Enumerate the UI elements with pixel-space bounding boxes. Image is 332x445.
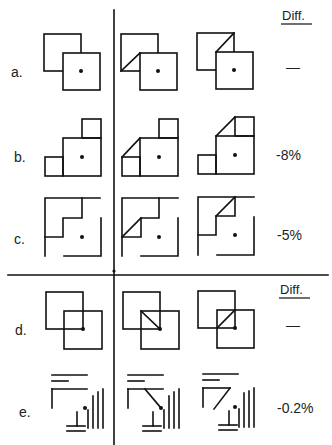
figure-panel: Diff. Diff. a. — b. bbox=[0, 0, 332, 445]
row-label: c. bbox=[14, 231, 25, 247]
row-e: e. bbox=[19, 374, 314, 431]
figure-a-original bbox=[44, 34, 100, 90]
occlusion-figure-diagram: Diff. Diff. a. — b. bbox=[0, 0, 332, 445]
row-label: b. bbox=[14, 149, 26, 165]
row-d: d. — bbox=[15, 291, 300, 349]
figure-a-variant-2 bbox=[197, 33, 253, 89]
diff-value: — bbox=[286, 59, 300, 75]
divider-tick bbox=[112, 269, 115, 272]
figure-c-variant-1 bbox=[122, 198, 178, 256]
diff-header-label: Diff. bbox=[280, 282, 303, 297]
diff-header-label: Diff. bbox=[282, 8, 305, 23]
row-c: c. -5% bbox=[14, 197, 302, 256]
header-diff-bottom: Diff. bbox=[279, 282, 310, 298]
header-diff-top: Diff. bbox=[281, 8, 312, 24]
figure-b-variant-1 bbox=[122, 119, 178, 176]
figure-c-variant-2 bbox=[198, 197, 254, 255]
row-a: a. — bbox=[11, 33, 300, 90]
figure-e-original bbox=[52, 375, 103, 431]
diff-value: -0.2% bbox=[277, 400, 314, 416]
figure-b-variant-2 bbox=[198, 117, 254, 174]
row-label: e. bbox=[19, 404, 31, 420]
row-label: d. bbox=[15, 322, 27, 338]
diff-value: — bbox=[286, 317, 300, 333]
figure-a-variant-1 bbox=[121, 34, 177, 90]
figure-b-original bbox=[45, 119, 101, 176]
figure-d-variant-1 bbox=[123, 292, 179, 349]
row-label: a. bbox=[11, 64, 23, 80]
figure-d-variant-2 bbox=[198, 291, 254, 348]
row-b: b. -8% bbox=[14, 117, 301, 176]
figure-c-original bbox=[45, 198, 101, 256]
figure-d-original bbox=[46, 292, 102, 349]
figure-e-variant-2 bbox=[203, 374, 254, 430]
figure-e-variant-1 bbox=[128, 375, 179, 431]
diff-value: -5% bbox=[277, 227, 302, 243]
diff-value: -8% bbox=[276, 147, 301, 163]
